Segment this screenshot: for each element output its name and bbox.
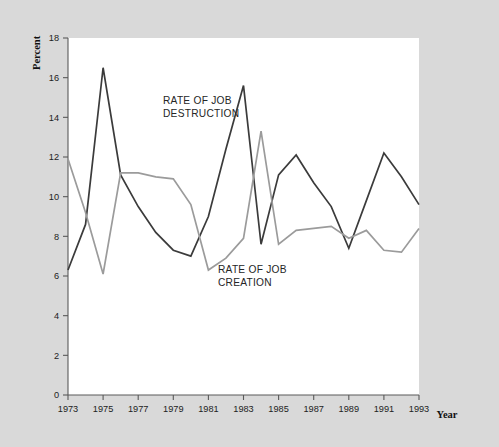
- x-tick-label: 1977: [128, 404, 148, 414]
- destruction-label-line1: RATE OF JOB: [163, 95, 232, 106]
- destruction-label: RATE OF JOBDESTRUCTION: [163, 95, 239, 119]
- y-tick-label: 2: [54, 351, 59, 361]
- x-tick-label: 1993: [409, 404, 429, 414]
- y-tick-label: 4: [54, 311, 59, 321]
- x-axis-title: Year: [437, 409, 458, 420]
- creation-label-line1: RATE OF JOB: [218, 264, 287, 275]
- x-tick-label: 1987: [303, 404, 323, 414]
- x-tick-label: 1983: [233, 404, 253, 414]
- y-tick-label: 18: [49, 33, 59, 43]
- chart-svg: 024681012141618 Percent 1973197519771979…: [0, 0, 499, 447]
- x-tick-label: 1989: [339, 404, 359, 414]
- x-tick-label: 1979: [163, 404, 183, 414]
- y-tick-label: 10: [49, 192, 59, 202]
- x-tick-label: 1991: [374, 404, 394, 414]
- y-tick-label: 12: [49, 152, 59, 162]
- x-tick-label: 1973: [58, 404, 78, 414]
- creation-label-line2: CREATION: [218, 277, 272, 288]
- destruction-label-line2: DESTRUCTION: [163, 108, 239, 119]
- y-axis-title: Percent: [31, 35, 42, 70]
- y-tick-label: 8: [54, 232, 59, 242]
- x-tick-label: 1985: [268, 404, 288, 414]
- y-tick-label: 16: [49, 73, 59, 83]
- y-tick-label: 14: [49, 113, 59, 123]
- x-tick-label: 1975: [93, 404, 113, 414]
- x-tick-label: 1981: [198, 404, 218, 414]
- y-tick-label: 0: [54, 390, 59, 400]
- y-tick-label: 6: [54, 271, 59, 281]
